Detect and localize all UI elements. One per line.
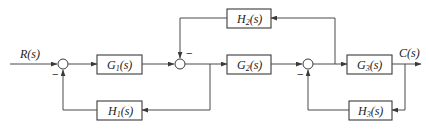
summing-junction-2 bbox=[175, 59, 185, 69]
block-h1: H1(s) bbox=[97, 101, 142, 120]
summing-junction-1 bbox=[58, 59, 68, 69]
minus-sign-1: − bbox=[52, 68, 58, 80]
block-diagram: R(s) − G1(s) − G2(s) H1(s) − G3(s) H2(s)… bbox=[0, 0, 429, 132]
h1-feedback-out-line bbox=[63, 70, 97, 110]
svg-text:G1(s): G1(s) bbox=[107, 58, 132, 74]
input-label: R(s) bbox=[19, 47, 40, 61]
summing-junction-3 bbox=[303, 59, 313, 69]
block-g2: G2(s) bbox=[227, 55, 271, 74]
svg-text:H1(s): H1(s) bbox=[107, 104, 133, 120]
output-label: C(s) bbox=[399, 46, 420, 60]
h3-feedback-in-line bbox=[392, 64, 405, 110]
h1-feedback-in-line bbox=[142, 64, 210, 110]
h2-feedback-in-line bbox=[271, 18, 335, 64]
block-g1: G1(s) bbox=[97, 55, 142, 74]
minus-sign-2: − bbox=[186, 47, 192, 59]
block-h2: H2(s) bbox=[227, 9, 271, 28]
svg-text:H2(s): H2(s) bbox=[236, 12, 262, 28]
block-g3: G3(s) bbox=[347, 55, 392, 74]
block-h3: H3(s) bbox=[349, 101, 392, 120]
svg-text:G3(s): G3(s) bbox=[357, 58, 382, 74]
svg-text:H3(s): H3(s) bbox=[357, 104, 383, 120]
h3-feedback-out-line bbox=[308, 70, 349, 110]
minus-sign-3: − bbox=[297, 68, 303, 80]
svg-text:G2(s): G2(s) bbox=[237, 58, 262, 74]
